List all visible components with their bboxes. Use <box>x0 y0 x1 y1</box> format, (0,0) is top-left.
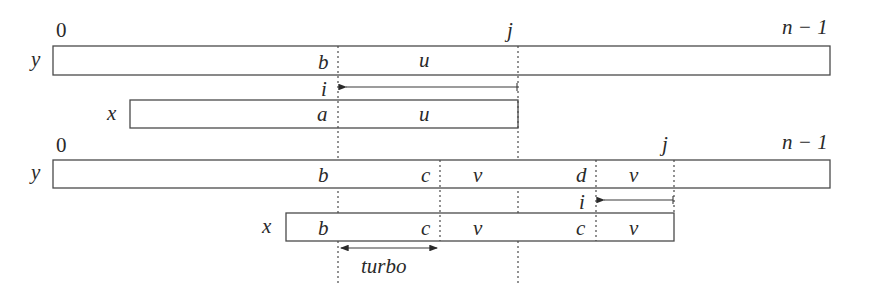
turbo-shift-diagram <box>0 0 870 283</box>
cell-d-y-bottom: d <box>576 165 587 186</box>
cell-b-y-bottom: b <box>318 165 329 186</box>
cell-c-x-bottom: c <box>421 218 430 239</box>
index-j-bottom: j <box>662 134 668 155</box>
cell-v2-x-bottom: v <box>629 218 638 239</box>
index-j-top: j <box>507 20 513 41</box>
shift-label-i-bottom: i <box>579 192 585 213</box>
pattern-x-label-top: x <box>107 103 116 124</box>
bottom-panel <box>53 160 830 248</box>
cell-a-top: a <box>317 104 328 125</box>
cell-c2-x-bottom: c <box>576 218 585 239</box>
text-y-label-bottom: y <box>31 162 40 183</box>
index-n-1-bottom: n − 1 <box>782 132 828 153</box>
text-y-label-top: y <box>31 49 40 70</box>
index-0-bottom: 0 <box>56 135 67 156</box>
turbo-label: turbo <box>361 256 407 277</box>
cell-b-x-bottom: b <box>318 218 329 239</box>
cell-v-y-bottom: v <box>473 165 482 186</box>
cell-b-top: b <box>318 52 329 73</box>
cell-v2-y-bottom: v <box>629 165 638 186</box>
text-y-box-top <box>53 46 830 75</box>
index-n-1-top: n − 1 <box>782 17 828 38</box>
cell-u-y-top: u <box>419 50 430 71</box>
cell-u-x-top: u <box>419 104 430 125</box>
cell-c-y-bottom: c <box>421 165 430 186</box>
index-0-top: 0 <box>56 20 67 41</box>
cell-v-x-bottom: v <box>473 218 482 239</box>
text-y-box-bottom <box>53 160 830 188</box>
shift-label-i-top: i <box>321 79 327 100</box>
pattern-x-label-bottom: x <box>262 216 271 237</box>
